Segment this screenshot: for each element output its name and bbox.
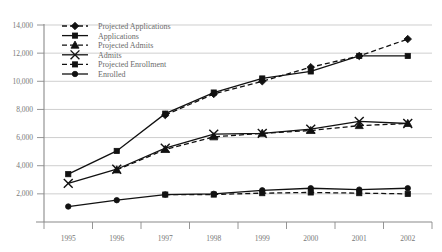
data-point-square	[260, 76, 265, 81]
chart-background	[0, 0, 442, 252]
x-tick-label: 2000	[303, 234, 318, 243]
x-tick-label: 1998	[206, 234, 221, 243]
chart-canvas: 2,0004,0006,0008,00010,00012,00014,000 1…	[0, 0, 442, 252]
legend-item-label: Admits	[98, 51, 122, 60]
data-point-square	[114, 148, 119, 153]
data-point-square	[66, 172, 71, 177]
legend-item-label: Projected Enrollment	[98, 60, 167, 69]
data-point-circle	[163, 192, 168, 197]
x-tick-label: 2002	[400, 234, 415, 243]
legend-item-label: Projected Admits	[98, 41, 153, 50]
data-point-square	[308, 69, 313, 74]
y-tick-label: 14,000	[12, 21, 33, 30]
data-point-circle	[211, 191, 216, 196]
y-tick-label: 6,000	[16, 133, 33, 142]
data-point-square	[211, 90, 216, 95]
data-point-circle	[260, 188, 265, 193]
data-point-square	[72, 33, 77, 38]
data-point-circle	[308, 185, 313, 190]
data-point-circle	[114, 197, 119, 202]
data-point-circle	[405, 185, 410, 190]
line-chart: 2,0004,0006,0008,00010,00012,00014,000 1…	[0, 0, 442, 252]
legend-item-label: Applications	[98, 32, 139, 41]
y-tick-label: 2,000	[16, 189, 33, 198]
legend-item-label: Enrolled	[98, 70, 126, 79]
x-tick-label: 1995	[61, 234, 76, 243]
data-point-square	[405, 53, 410, 58]
data-point-circle	[357, 187, 362, 192]
x-tick-label: 2001	[352, 234, 367, 243]
data-point-circle	[66, 204, 71, 209]
data-point-square	[72, 62, 77, 67]
legend-item-label: Projected Applications	[98, 22, 171, 31]
data-point-circle	[72, 71, 77, 76]
data-point-square	[357, 53, 362, 58]
y-tick-label: 8,000	[16, 105, 33, 114]
data-point-square	[163, 111, 168, 116]
y-tick-label: 12,000	[12, 49, 33, 58]
x-tick-label: 1997	[158, 234, 173, 243]
x-tick-label: 1996	[109, 234, 124, 243]
data-point-square	[405, 191, 410, 196]
x-tick-label: 1999	[255, 234, 270, 243]
y-tick-label: 4,000	[16, 161, 33, 170]
y-tick-label: 10,000	[12, 77, 33, 86]
